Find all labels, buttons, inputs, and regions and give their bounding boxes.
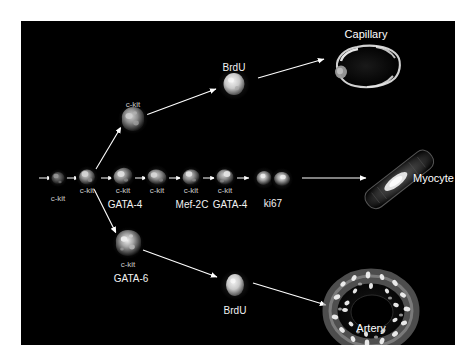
cell-stem-2 (76, 166, 98, 188)
cell-mid-5 (180, 166, 202, 188)
image-artery (325, 271, 417, 345)
cell-mid-4 (145, 165, 169, 189)
cell-branch-lower-ckit (112, 227, 144, 259)
pathway-graphics (21, 21, 455, 345)
cell-mid-6 (214, 166, 236, 188)
cell-brdu-bottom (220, 270, 250, 300)
image-myocyte (361, 146, 437, 212)
cell-mid-3 (111, 164, 135, 188)
cell-brdu-top (218, 68, 250, 100)
cell-pair-ki67 (253, 167, 293, 190)
cell-branch-upper-ckit (118, 104, 148, 134)
cell-chain-middle (49, 164, 293, 190)
microscopy-panel: c-kit c-kit c-kit BrdU Capillary c-kit G… (21, 21, 455, 345)
cell-stem-1 (49, 169, 67, 187)
image-capillary (330, 44, 402, 88)
figure-root: c-kit c-kit c-kit BrdU Capillary c-kit G… (0, 0, 472, 361)
